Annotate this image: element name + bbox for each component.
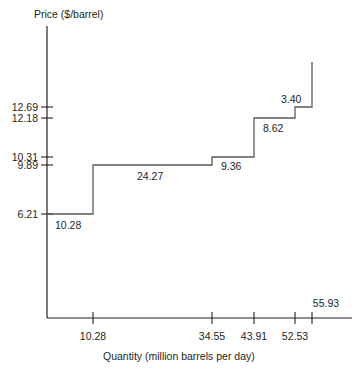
- segment-label-8-62: 8.62: [263, 122, 283, 134]
- segment-label-3-40: 3.40: [281, 93, 301, 105]
- x-tick-label-10-28: 10.28: [67, 330, 119, 342]
- x-axis-title: Quantity (million barrels per day): [103, 350, 255, 362]
- segment-label-24-27: 24.27: [137, 170, 163, 182]
- x-tick-label-52-53: 52.53: [269, 330, 321, 342]
- segment-label-10-28: 10.28: [55, 219, 81, 231]
- supply-curve-chart: Price ($/barrel) Quantity (million barre…: [0, 0, 361, 372]
- y-tick-label-6-21: 6.21: [0, 208, 38, 220]
- y-axis-title: Price ($/barrel): [34, 8, 103, 20]
- chart-canvas: [0, 0, 361, 372]
- supply-step-curve: [47, 62, 312, 214]
- y-tick-label-12-18: 12.18: [0, 112, 38, 124]
- y-tick-label-9-89: 9.89: [0, 159, 38, 171]
- segment-label-9-36: 9.36: [221, 160, 241, 172]
- x-tick-label-55-93: 55.93: [300, 297, 352, 309]
